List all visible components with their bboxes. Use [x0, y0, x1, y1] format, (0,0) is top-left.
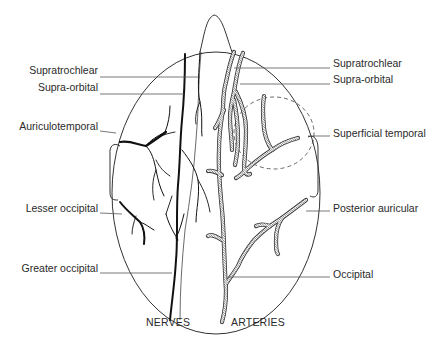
right-ear	[308, 136, 318, 197]
label-artery-supra-orbital: Supra-orbital	[333, 73, 393, 85]
scalp-diagram: Supratrochlear Supra-orbital Auriculotem…	[0, 0, 441, 343]
heading-nerves: NERVES	[146, 316, 190, 328]
label-nerve-supra-orbital: Supra-orbital	[38, 81, 98, 93]
label-artery-superficial-temporal: Superficial temporal	[333, 127, 426, 139]
nose-outline	[200, 15, 232, 52]
label-nerve-auriculotemporal: Auriculotemporal	[19, 120, 98, 132]
label-artery-occipital: Occipital	[333, 268, 373, 280]
label-artery-supratrochlear: Supratrochlear	[333, 57, 402, 69]
arteries	[208, 52, 306, 322]
scalp-illustration	[0, 0, 441, 343]
label-nerve-supratrochlear: Supratrochlear	[29, 64, 98, 76]
label-nerve-greater-occipital: Greater occipital	[22, 262, 98, 274]
heading-arteries: ARTERIES	[231, 316, 285, 328]
label-artery-posterior-auricular: Posterior auricular	[333, 202, 418, 214]
left-ear	[110, 144, 120, 200]
label-nerve-lesser-occipital: Lesser occipital	[26, 202, 98, 214]
